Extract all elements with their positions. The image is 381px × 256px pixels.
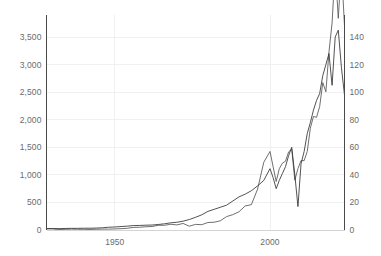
x-axis-tick-label: 1950 xyxy=(90,236,140,248)
gridline-group xyxy=(47,15,345,230)
y-axis-left-tick-label: 1,500 xyxy=(0,141,42,153)
y-axis-left-tick-label: 0 xyxy=(0,224,42,236)
y-axis-right-tick-label: 80 xyxy=(350,114,381,126)
series-line-series-left-axis xyxy=(47,0,345,229)
y-axis-left-tick-label: 2,000 xyxy=(0,114,42,126)
y-axis-left-tick-label: 2,500 xyxy=(0,86,42,98)
y-axis-right-tick-label: 100 xyxy=(350,86,381,98)
series-line-series-right-axis xyxy=(47,30,345,228)
y-axis-right-tick-label: 140 xyxy=(350,31,381,43)
y-axis-right-tick-label: 60 xyxy=(350,141,381,153)
y-axis-left-tick-label: 3,500 xyxy=(0,31,42,43)
y-axis-left-tick-label: 500 xyxy=(0,196,42,208)
y-axis-left-tick-label: 3,000 xyxy=(0,59,42,71)
chart-plot-svg xyxy=(0,0,381,256)
axis-spine-group xyxy=(47,15,345,230)
y-axis-right-tick-label: 40 xyxy=(350,169,381,181)
series-path-group xyxy=(47,0,345,229)
y-axis-right-tick-label: 20 xyxy=(350,196,381,208)
y-axis-right-tick-label: 0 xyxy=(350,224,381,236)
y-axis-left-tick-label: 1,000 xyxy=(0,169,42,181)
x-axis-tick-label: 2000 xyxy=(245,236,295,248)
y-axis-right-tick-label: 120 xyxy=(350,59,381,71)
chart-container: 05001,0001,5002,0002,5003,0003,500020406… xyxy=(0,0,381,256)
